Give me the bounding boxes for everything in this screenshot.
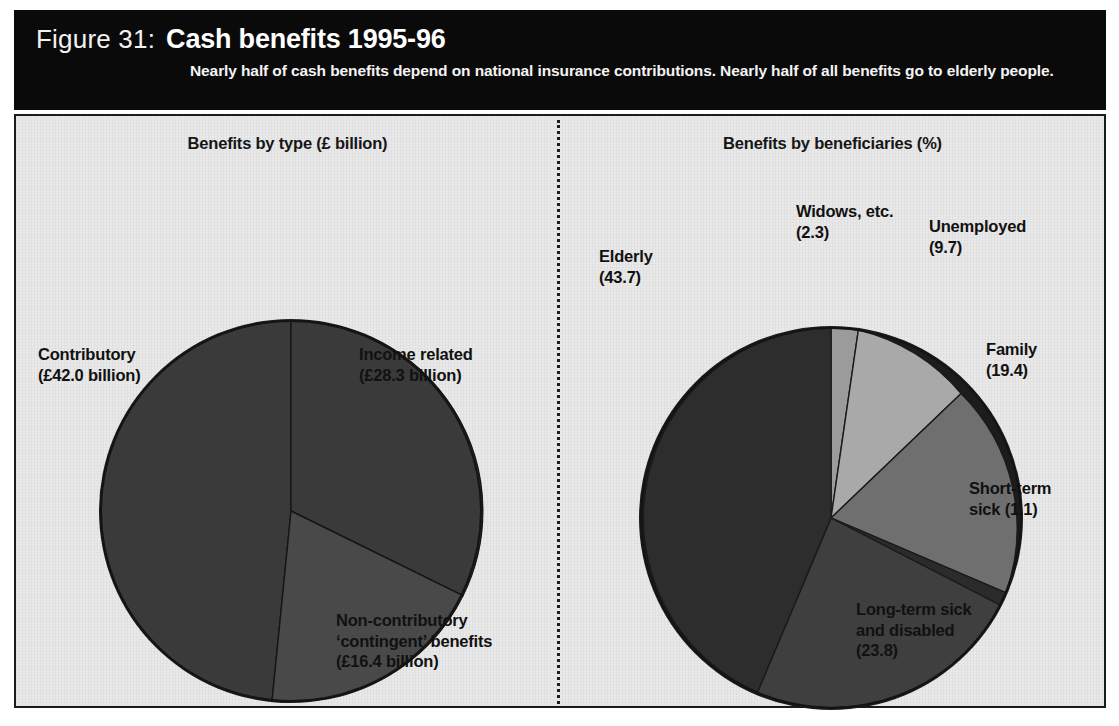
figure-title: Cash benefits 1995-96: [166, 24, 445, 54]
header-title-row: Figure 31:Cash benefits 1995-96: [36, 24, 446, 55]
label-contributory: Contributory (£42.0 billion): [38, 344, 140, 385]
plot-frame: Benefits by type (£ billion) Contributor…: [14, 114, 1106, 708]
panel-benefits-by-beneficiaries: Benefits by beneficiaries (%): [561, 116, 1104, 706]
panel-benefits-by-type: Benefits by type (£ billion) Contributor…: [16, 116, 559, 706]
label-widows: Widows, etc. (2.3): [796, 201, 893, 242]
label-income-related: Income related (£28.3 billion): [359, 344, 473, 385]
panel-left-title: Benefits by type (£ billion): [16, 134, 559, 153]
figure-number: Figure 31:: [36, 24, 155, 54]
label-elderly: Elderly (43.7): [599, 246, 653, 287]
figure-header: Figure 31:Cash benefits 1995-96 Nearly h…: [14, 10, 1106, 110]
label-long-term-sick: Long-term sick and disabled (23.8): [856, 599, 971, 661]
label-unemployed: Unemployed (9.7): [929, 216, 1026, 257]
label-non-contributory: Non-contributory ‘contingent’ benefits (…: [336, 610, 492, 672]
figure-subtitle: Nearly half of cash benefits depend on n…: [190, 60, 1080, 81]
label-short-term-sick: Short-term sick (1.1): [969, 478, 1051, 519]
figure-root: Figure 31:Cash benefits 1995-96 Nearly h…: [0, 0, 1119, 726]
label-family: Family (19.4): [986, 339, 1037, 380]
panel-right-title: Benefits by beneficiaries (%): [561, 134, 1104, 153]
